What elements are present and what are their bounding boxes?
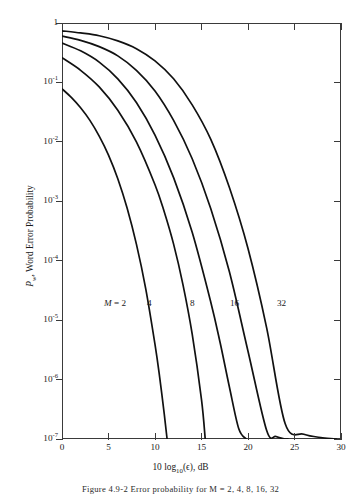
figure-error-probability: 110-110-210-310-410-510-610-705101520253… [0, 0, 361, 494]
y-tick-mantissa: 10 [43, 76, 52, 86]
curve-m-2 [62, 89, 167, 439]
curve-label-equals: = [112, 298, 122, 308]
y-tick-exponent: -6 [53, 372, 59, 379]
x-axis-tick [62, 433, 63, 440]
y-axis-tick-right [334, 320, 341, 321]
curve-label-32: 32 [277, 299, 286, 308]
y-axis-title: Pw, Word Error Probability [25, 136, 35, 336]
y-axis-tick-label: 10-2 [43, 137, 58, 146]
y-axis-tick-right [334, 260, 341, 261]
x-axis-tick-label: 25 [275, 443, 315, 452]
x-axis-title: 10 log10(ϵ), dB [0, 462, 361, 472]
y-tick-exponent: -3 [53, 193, 59, 200]
x-axis-tick-top [155, 23, 156, 30]
y-tick-mantissa: 10 [43, 136, 52, 146]
y-tick-mantissa: 10 [43, 314, 52, 324]
x-axis-tick [108, 433, 109, 440]
curve-label-value: 2 [121, 298, 126, 308]
x-axis-tick-label: 30 [321, 443, 361, 452]
curve-label-2: M = 2 [104, 299, 126, 308]
x-axis-tick [294, 433, 295, 440]
y-axis-tick-label: 10-6 [43, 375, 58, 384]
x-axis-tick-label: 5 [89, 443, 129, 452]
x-axis-tick-label: 0 [42, 443, 82, 452]
x-axis-tick-label: 20 [228, 443, 268, 452]
x-axis-tick [155, 433, 156, 440]
curve-m-16 [62, 36, 288, 439]
x-axis-tick-label: 15 [182, 443, 222, 452]
curve-label-value: 32 [277, 298, 286, 308]
x-axis-title-pre: 10 log [152, 462, 176, 472]
curve-label-8: 8 [190, 299, 195, 308]
y-tick-exponent: -4 [53, 253, 59, 260]
curve-label-16: 16 [230, 299, 239, 308]
y-tick-mantissa: 10 [43, 255, 52, 265]
x-axis-tick-top [341, 23, 342, 30]
y-tick-exponent: -1 [53, 74, 59, 81]
x-axis-tick [248, 433, 249, 440]
y-axis-tick-label: 10-1 [43, 77, 58, 86]
curve-label-4: 4 [147, 299, 152, 308]
curve-label-value: 8 [190, 298, 195, 308]
x-axis-tick [201, 433, 202, 440]
x-axis-tick-top [248, 23, 249, 30]
curve-label-value: 16 [230, 298, 239, 308]
curve-label-symbol: M [104, 298, 112, 308]
y-axis-tick-right [334, 379, 341, 380]
y-axis-tick-label: 10-7 [43, 434, 58, 443]
y-tick-exponent: -5 [53, 312, 59, 319]
y-tick-mantissa: 10 [43, 374, 52, 384]
x-axis-title-post: (ϵ), dB [183, 462, 209, 472]
y-axis-tick-label: 10-5 [43, 315, 58, 324]
x-axis-tick-top [108, 23, 109, 30]
y-axis-tick-right [334, 82, 341, 83]
y-axis-title-symbol: P [25, 281, 35, 287]
curve-m-8 [62, 43, 246, 439]
y-tick-exponent: -7 [53, 431, 59, 438]
y-tick-mantissa: 10 [43, 195, 52, 205]
y-axis-tick-label: 10-4 [43, 256, 58, 265]
x-axis-tick-top [62, 23, 63, 30]
y-tick-mantissa: 10 [43, 433, 52, 443]
figure-caption-text: Figure 4.9-2 Error probability for M = 2… [82, 484, 279, 494]
figure-caption: Figure 4.9-2 Error probability for M = 2… [0, 484, 361, 494]
y-tick-exponent: -2 [53, 134, 59, 141]
y-axis-tick-label: 1 [53, 18, 58, 27]
x-axis-tick-label: 10 [135, 443, 175, 452]
curve-label-value: 4 [147, 298, 152, 308]
x-axis-tick-top [201, 23, 202, 30]
x-axis-tick [341, 433, 342, 440]
x-axis-tick-top [294, 23, 295, 30]
y-axis-tick-right [334, 141, 341, 142]
y-axis-tick-label: 10-3 [43, 196, 58, 205]
curve-layer [62, 23, 341, 439]
x-axis-title-sub: 10 [176, 467, 183, 474]
curves-svg [62, 23, 341, 439]
y-axis-tick-right [334, 201, 341, 202]
y-axis-title-rest: , Word Error Probability [25, 185, 35, 276]
y-axis-title-subscript: w [30, 276, 37, 281]
curve-m-4 [62, 58, 205, 439]
